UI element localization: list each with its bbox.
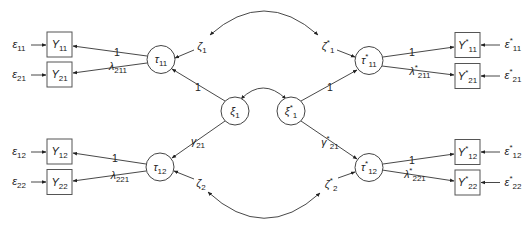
label-es11: ε*11 <box>505 36 522 53</box>
label-zeta1: ζ1 <box>197 40 207 55</box>
label-es12: ε*12 <box>505 143 522 160</box>
arrow-tau12-y22 <box>73 171 146 181</box>
label-zetas1: ζ*1 <box>322 38 335 55</box>
path-label-tau12-y22: λ221 <box>110 169 130 184</box>
arrow-taus12-ys12 <box>383 154 454 164</box>
covariance-zeta2-zetas2 <box>208 192 320 218</box>
path-label-xis1-taus11: 1 <box>327 81 333 93</box>
path-label-xis1-taus12: γ*21 <box>321 134 339 151</box>
label-e12: ε12 <box>12 145 26 160</box>
path-label-taus11-ys21: λ*211 <box>408 63 431 80</box>
path-label-tau11-y11: 1 <box>114 46 120 58</box>
arrow-tau12-y12 <box>73 153 146 164</box>
sem-path-diagram: Y11 Y21 Y12 Y22 Y*11 Y*21 Y*12 Y*22 ε11 … <box>0 0 531 230</box>
arrow-taus11-ys11 <box>383 47 454 57</box>
label-e11: ε11 <box>12 38 26 53</box>
covariance-xi1-xis1 <box>241 88 286 99</box>
path-label-tau12-y12: 1 <box>112 152 118 164</box>
label-e21: ε21 <box>12 68 26 83</box>
arrow-zetas1-taus11 <box>337 50 355 57</box>
label-zeta2: ζ2 <box>196 177 206 192</box>
arrow-zeta2-tau12 <box>174 171 194 179</box>
path-label-xi1-tau12: γ21 <box>191 135 206 150</box>
path-label-taus12-ys12: 1 <box>409 154 415 166</box>
path-label-taus11-ys11: 1 <box>409 46 415 58</box>
label-zetas2: ζ*2 <box>325 176 338 193</box>
label-e22: ε22 <box>12 175 26 190</box>
arrow-zetas2-taus12 <box>338 172 355 178</box>
label-es22: ε*22 <box>505 174 522 191</box>
arrow-xi1-tau12 <box>172 121 225 158</box>
path-label-tau11-y21: λ211 <box>108 60 127 75</box>
arrow-tau11-y11 <box>73 46 147 56</box>
arrow-zeta1-tau11 <box>175 50 194 58</box>
label-es21: ε*21 <box>505 67 522 84</box>
path-label-taus12-ys22: λ*221 <box>403 166 426 183</box>
covariance-zeta1-zetas1 <box>210 11 318 35</box>
path-label-xi1-tau11: 1 <box>195 81 201 93</box>
